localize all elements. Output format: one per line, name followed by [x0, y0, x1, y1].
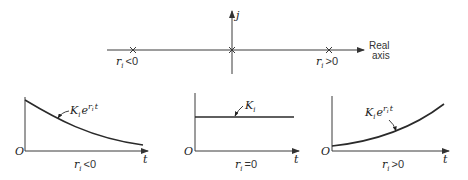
origin-label: O	[15, 145, 24, 158]
curve-label: Ki	[244, 99, 255, 114]
origin-label: O	[184, 145, 193, 158]
condition-label: ri=0	[235, 158, 257, 173]
leader-arrow	[235, 106, 243, 116]
graph-decaying: O t Kierit ri<0	[15, 97, 148, 173]
real-axis-label-line2: axis	[372, 50, 390, 61]
leader-arrow	[389, 120, 396, 131]
imaginary-axis-label: j	[233, 9, 240, 22]
graph-constant: O t Ki ri=0	[184, 93, 299, 173]
t-axis-label: t	[143, 153, 148, 166]
condition-label: ri<0	[74, 158, 96, 173]
curve-label: Kierit	[364, 104, 394, 121]
root-label-positive: ri>0	[316, 55, 338, 70]
origin-label: O	[321, 145, 330, 158]
complex-plane: j Real axis ri<0 ri>0	[107, 9, 390, 74]
root-locations-diagram: j Real axis ri<0 ri>0 O t Kierit ri<0	[0, 0, 468, 180]
leader-arrow	[58, 111, 69, 118]
curve-label: Kierit	[69, 102, 99, 119]
graph-growing: O t Kierit ri>0	[321, 96, 449, 173]
t-axis-label: t	[294, 153, 299, 166]
condition-label: ri>0	[382, 158, 404, 173]
t-axis-label: t	[443, 153, 448, 166]
root-label-negative: ri<0	[116, 55, 138, 70]
